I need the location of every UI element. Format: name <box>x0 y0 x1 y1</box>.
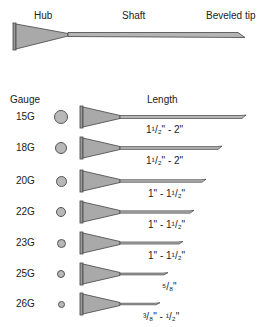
gauge-diameter-circle <box>56 176 67 187</box>
length-label: 1" - 1¹/₂" <box>148 219 185 230</box>
gauge-label: 20G <box>16 175 35 186</box>
length-label: ⁵/₈" <box>162 281 177 292</box>
length-label: ³/₈" - ¹/₂" <box>143 311 179 322</box>
top-needle <box>13 23 245 50</box>
gauge-label: 22G <box>16 206 35 217</box>
gauge-diameter-circle <box>55 142 67 154</box>
needle-20G <box>80 170 206 192</box>
gauge-diameter-circle <box>57 270 65 278</box>
gauge-label: 18G <box>16 142 35 153</box>
gauge-label: 23G <box>16 237 35 248</box>
gauge-label: 26G <box>16 298 35 309</box>
length-label: 1¹/₂" - 2" <box>146 124 183 135</box>
gauge-diameter-circle <box>57 239 66 248</box>
gauge-diameter-circle <box>56 207 66 217</box>
needle-25G <box>80 263 168 285</box>
gauge-label: 15G <box>16 111 35 122</box>
gauge-diameter-circle <box>54 110 68 124</box>
length-label: 1" - 1¹/₂" <box>148 188 185 199</box>
gauge-diameter-circle <box>58 301 65 308</box>
length-label: 1¹/₂" - 2" <box>146 155 183 166</box>
gauge-label: 25G <box>16 268 35 279</box>
needle-diagram <box>0 0 258 327</box>
length-label: 1" - 1¹/₂" <box>148 250 185 261</box>
